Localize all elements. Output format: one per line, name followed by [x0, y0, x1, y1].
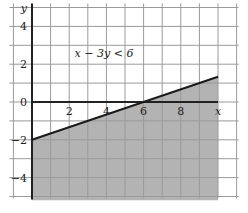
x-tick-label: 8: [177, 105, 184, 118]
x-tick-label: 6: [140, 105, 147, 118]
y-tick-label: −2: [11, 134, 27, 147]
inequality-graph: 2468420−2−4xyx − 3y < 6: [0, 0, 248, 213]
y-tick-label: 0: [20, 96, 27, 109]
y-axis-label: y: [20, 2, 28, 15]
y-tick-label: −4: [11, 172, 27, 185]
x-tick-label: 4: [103, 105, 110, 118]
y-tick-label: 4: [20, 20, 27, 33]
x-axis-label: x: [215, 105, 222, 118]
inequality-annotation: x − 3y < 6: [75, 47, 134, 60]
x-tick-label: 2: [66, 105, 73, 118]
y-tick-label: 2: [20, 58, 27, 71]
